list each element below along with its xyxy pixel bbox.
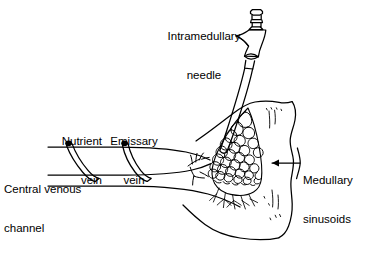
bone-right-cortex [279, 102, 295, 238]
label-emissary-vein-line1: Emissary [105, 135, 163, 148]
label-medullary-sinusoids: Medullary sinusoids [303, 148, 381, 252]
marrow-feeding-branches [188, 153, 209, 185]
sinusoid-arrowhead [272, 160, 279, 167]
intramedullary-needle-diagram: Intramedullary needle Nutrient vein Emis… [0, 0, 383, 264]
label-medullary-sinusoids-line1: Medullary [303, 174, 381, 187]
bone-lower-cortex [183, 205, 279, 240]
label-emissary-vein-line2: vein [105, 174, 163, 187]
label-nutrient-vein-line1: Nutrient [50, 135, 102, 148]
sinusoid-cells [208, 112, 263, 186]
label-central-venous-channel: Central venous channel [4, 157, 96, 261]
label-emissary-vein: Emissary vein [105, 109, 163, 213]
label-intramedullary-needle: Intramedullary needle [150, 4, 258, 108]
label-central-venous-channel-line2: channel [4, 222, 96, 235]
label-intramedullary-needle-line2: needle [150, 69, 258, 82]
label-intramedullary-needle-line1: Intramedullary [150, 30, 258, 43]
label-medullary-sinusoids-line2: sinusoids [303, 213, 381, 226]
label-central-venous-channel-line1: Central venous [4, 183, 96, 196]
medullary-sinusoid-network [208, 108, 263, 209]
sinusoid-annotation [272, 148, 300, 179]
marrow-rootlets [210, 188, 258, 209]
